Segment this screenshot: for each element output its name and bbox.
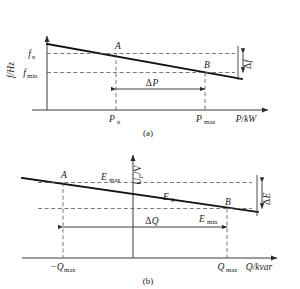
panel-b-level-emax-sub: max <box>109 176 121 183</box>
panel-a-delta-p-label: ΔP <box>146 78 159 88</box>
panel-a-y-tick-fmin: f min <box>23 68 38 79</box>
panel-b-y-axis-label-text: UF/V <box>133 165 144 185</box>
panel-b-x-tick-neg-qmax: −Q max <box>50 262 76 273</box>
panel-a-y-tick-fmin-sub: min <box>27 72 38 79</box>
panel-b-delta-e-label: ΔE <box>262 192 272 205</box>
panel-b-x-tick-neg-qmax-sub: max <box>64 266 76 273</box>
panel-a-x-tick-pmax: P max <box>195 114 216 125</box>
panel-a-delta-f-span: Δf <box>238 46 253 80</box>
panel-b-delta-q-label: ΔQ <box>145 216 159 226</box>
panel-a: f n f min f/Hz P n P max P/kW A B ΔP <box>6 36 268 138</box>
panel-a-x-tick-pn-base: P <box>108 114 115 124</box>
panel-b-x-tick-qmax-sub: max <box>226 266 238 273</box>
panel-b-level-e0-base: E <box>162 192 169 202</box>
panel-a-x-tick-pn-sub: n <box>117 118 121 125</box>
panel-a-delta-p-span: ΔP <box>116 78 205 89</box>
figure-svg: f n f min f/Hz P n P max P/kW A B ΔP <box>0 0 300 289</box>
panel-a-droop-line <box>47 44 242 79</box>
panel-b-y-axis-label: UF/V <box>133 165 144 185</box>
droop-characteristic-figure: f n f min f/Hz P n P max P/kW A B ΔP <box>0 0 300 289</box>
panel-a-x-tick-pmax-base: P <box>195 114 202 124</box>
panel-b-x-tick-qmax-base: Q <box>218 262 225 272</box>
panel-a-caption: (a) <box>143 128 153 138</box>
panel-b-level-label-emin: E min <box>198 214 218 225</box>
panel-b-level-label-e0: E 0 <box>162 192 175 203</box>
panel-b-level-label-emax: E max <box>100 172 121 183</box>
panel-b: UF/V E max E 0 E min −Q max Q max Q/kvar… <box>22 155 277 286</box>
panel-a-x-tick-pmax-sub: max <box>204 118 216 125</box>
panel-a-point-a-label: A <box>114 41 121 51</box>
panel-a-y-tick-fn: f n <box>28 49 36 60</box>
panel-b-x-tick-qmax: Q max <box>218 262 238 273</box>
panel-b-level-emin-base: E <box>198 214 205 224</box>
panel-a-x-tick-pn: P n <box>108 114 121 125</box>
panel-a-y-axis-label: f/Hz <box>6 62 16 78</box>
panel-b-point-b-label: B <box>225 197 231 207</box>
panel-b-caption: (b) <box>143 276 154 286</box>
panel-a-x-axis-label: P/kW <box>235 114 258 124</box>
panel-a-y-tick-fn-sub: n <box>32 53 36 60</box>
panel-a-point-b-label: B <box>204 60 210 70</box>
panel-b-level-emax-base: E <box>100 172 107 182</box>
panel-b-point-a-label: A <box>60 170 67 180</box>
panel-b-x-axis-label: Q/kvar <box>246 262 273 272</box>
panel-b-delta-e-span: ΔE <box>257 175 272 216</box>
panel-a-delta-f-label: Δf <box>243 58 253 69</box>
panel-b-level-emin-sub: min <box>207 218 218 225</box>
panel-b-x-tick-neg-qmax-base: −Q <box>50 262 63 272</box>
